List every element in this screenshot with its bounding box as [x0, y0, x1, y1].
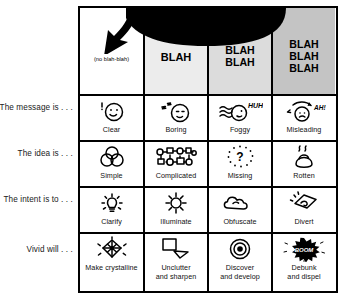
matrix-cell: Divert — [273, 188, 335, 232]
matrix-cell: Illuminate — [145, 188, 207, 232]
diagram-canvas: The message is . . . The idea is . . . T… — [0, 0, 345, 304]
svg-text:HUH?: HUH? — [248, 102, 263, 109]
shapes-icon — [147, 236, 205, 262]
matrix-cell: BOOM Debunkand dispel — [273, 234, 335, 295]
cloud-icon — [211, 190, 269, 216]
crystal-icon — [83, 236, 141, 262]
lightbulb-icon — [83, 190, 141, 216]
cell-caption: Rotten — [293, 171, 314, 180]
column-header-3: BLAHBLAH — [209, 45, 271, 69]
svg-text:AH!: AH! — [313, 104, 326, 111]
sun-icon — [147, 190, 205, 216]
misleading-face-icon: AH! — [275, 98, 333, 124]
column-header-shade-1 — [80, 8, 143, 96]
cell-caption: Discoverand develop — [220, 263, 260, 281]
boom-burst-icon: BOOM — [275, 236, 333, 262]
matrix-cell: Make crystalline — [80, 234, 143, 295]
row-label-vivid: Vivid will . . . — [0, 245, 73, 254]
matrix-cell: Clear — [80, 96, 143, 140]
svg-text:BOOM: BOOM — [295, 247, 315, 253]
cell-caption: Divert — [294, 217, 313, 226]
cell-caption: Complicated — [156, 171, 197, 180]
column-header-4: BLAHBLAHBLAH — [273, 39, 335, 75]
network-tangle-icon — [147, 144, 205, 170]
venn-circles-icon — [83, 144, 141, 170]
smiling-face-icon — [83, 98, 141, 124]
cell-caption: Boring — [165, 125, 186, 134]
matrix-cell: Clarify — [80, 188, 143, 232]
bullseye-icon — [211, 236, 269, 262]
cell-caption: Debunkand dispel — [287, 263, 320, 281]
cell-caption: Misleading — [287, 125, 322, 134]
arrow-sign-icon — [275, 190, 333, 216]
column-header-2: BLAH — [145, 51, 207, 63]
foggy-face-icon: HUH? — [211, 98, 269, 124]
cell-caption: Missing — [228, 171, 253, 180]
steaming-pile-icon — [275, 144, 333, 170]
matrix-cell: AH!Misleading — [273, 96, 335, 140]
matrix-cell: Unclutterand sharpen — [145, 234, 207, 295]
matrix-cell: HUH?Foggy — [209, 96, 271, 140]
cell-caption: Illuminate — [160, 217, 191, 226]
cell-caption: Foggy — [230, 125, 250, 134]
matrix-cell: Complicated — [145, 142, 207, 186]
column-header-1: (no blah-blah) — [80, 56, 143, 62]
matrix-cell: Rotten — [273, 142, 335, 186]
matrix-cell: Discoverand develop — [209, 234, 271, 295]
cell-caption: Obfuscate — [223, 217, 256, 226]
matrix-cell: ?Missing — [209, 142, 271, 186]
cell-caption: Unclutterand sharpen — [156, 263, 197, 281]
cell-caption: Clear — [103, 125, 120, 134]
cell-caption: Make crystalline — [85, 263, 137, 272]
row-label-intent: The intent is to . . . — [0, 195, 73, 204]
matrix-cell: Boring — [145, 96, 207, 140]
svg-text:?: ? — [236, 150, 243, 164]
cell-caption: Clarify — [101, 217, 122, 226]
matrix-cell: Obfuscate — [209, 188, 271, 232]
sleeping-face-icon — [147, 98, 205, 124]
row-label-idea: The idea is . . . — [0, 149, 73, 158]
matrix-table: (no blah-blah) BLAH BLAHBLAH BLAHBLAHBLA… — [78, 6, 338, 293]
cell-caption: Simple — [100, 171, 122, 180]
row-label-message: The message is . . . — [0, 103, 73, 112]
matrix-cell: Simple — [80, 142, 143, 186]
dotted-question-mark-icon: ? — [211, 144, 269, 170]
